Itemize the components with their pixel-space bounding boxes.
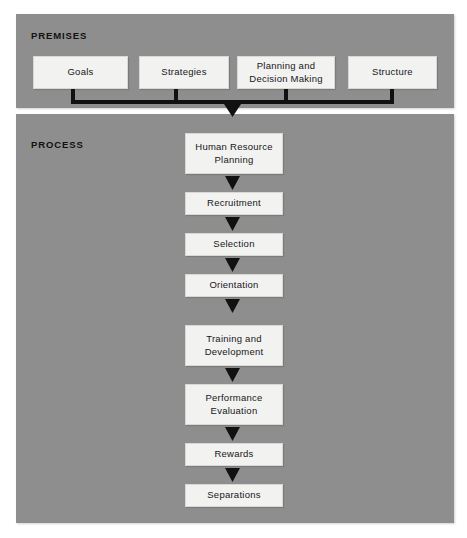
process-box-5-line-1: Performance (205, 392, 262, 405)
premises-box-planning-and-decision-making: Planning and Decision Making (237, 56, 335, 89)
hr-planning-diagram: PREMISES Goals Strategies Planning and D… (0, 0, 467, 538)
process-box-orientation: Orientation (185, 274, 283, 297)
process-box-4-line-2: Development (205, 346, 264, 359)
process-box-separations-label: Separations (204, 489, 263, 502)
process-box-selection: Selection (185, 233, 283, 256)
process-box-human-resource-planning-label: Human Resource Planning (192, 141, 275, 166)
process-box-recruitment-label: Recruitment (204, 197, 264, 210)
premises-box-strategies-label: Strategies (158, 66, 209, 79)
process-box-performance-evaluation-label: Performance Evaluation (202, 392, 265, 417)
premises-box-planning-line-1: Planning and (249, 60, 322, 73)
process-box-0-line-1: Human Resource (195, 141, 272, 154)
premises-section-label: PREMISES (31, 30, 87, 41)
premises-box-strategies: Strategies (139, 56, 229, 89)
premises-box-structure-label: Structure (369, 66, 416, 79)
process-box-separations: Separations (185, 484, 283, 507)
process-box-performance-evaluation: Performance Evaluation (185, 384, 283, 425)
process-box-human-resource-planning: Human Resource Planning (185, 133, 283, 174)
process-box-recruitment: Recruitment (185, 192, 283, 215)
premises-box-goals: Goals (33, 56, 128, 89)
process-section-label: PROCESS (31, 139, 84, 150)
process-box-0-line-2: Planning (195, 154, 272, 167)
process-box-5-line-2: Evaluation (205, 405, 262, 418)
process-box-rewards-label: Rewards (211, 448, 256, 461)
process-box-training-and-development: Training and Development (185, 325, 283, 366)
process-box-orientation-label: Orientation (206, 279, 261, 292)
premises-box-goals-label: Goals (64, 66, 96, 79)
process-box-rewards: Rewards (185, 443, 283, 466)
process-box-selection-label: Selection (210, 238, 257, 251)
premises-box-planning-line-2: Decision Making (249, 73, 322, 86)
premises-box-structure: Structure (348, 56, 437, 89)
process-box-4-line-1: Training and (205, 333, 264, 346)
premises-box-planning-and-decision-making-label: Planning and Decision Making (246, 60, 325, 85)
process-box-training-and-development-label: Training and Development (202, 333, 267, 358)
